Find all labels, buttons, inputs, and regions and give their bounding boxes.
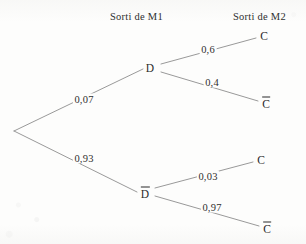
leaf-cbar-given-dbar: C (263, 222, 271, 235)
node-d-bar: D (141, 187, 149, 200)
header-sorti-de-m1: Sorti de M1 (110, 11, 163, 22)
leaf-cbar-given-dbar-text: C (263, 222, 271, 235)
leaf-cbar-given-d-text: C (262, 97, 270, 110)
leaf-c-given-d: C (260, 30, 268, 42)
prob-cbar-given-dbar: 0,97 (201, 202, 223, 213)
node-d-bar-text: D (141, 187, 149, 200)
prob-p-d: 0,07 (73, 94, 95, 105)
leaf-c-given-dbar: C (257, 154, 265, 166)
header-sorti-de-m2: Sorti de M2 (233, 11, 286, 22)
leaf-cbar-given-d: C (262, 97, 270, 110)
prob-c-given-dbar: 0,03 (197, 171, 219, 182)
prob-c-given-d: 0,6 (200, 44, 217, 55)
probability-tree-diagram: Sorti de M1 Sorti de M2 D D C C C C 0,07… (0, 0, 306, 244)
prob-cbar-given-d: 0,4 (204, 77, 221, 88)
prob-p-d-bar: 0,93 (73, 153, 95, 164)
node-d: D (146, 62, 154, 74)
